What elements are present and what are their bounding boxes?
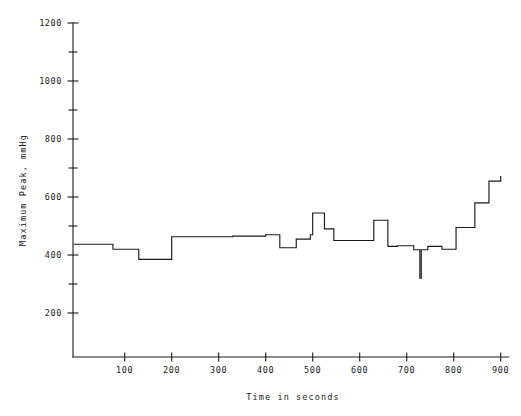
x-axis-tick-labels: 100200300400500600700800900 [116,365,509,375]
x-tick-label-300: 300 [210,365,227,375]
y-tick-label-400: 400 [45,250,62,260]
y-tick-label-200: 200 [45,308,62,318]
x-axis-title: Time in seconds [246,392,339,402]
y-tick-label-1000: 1000 [39,76,62,86]
x-tick-label-200: 200 [163,365,180,375]
y-tick-label-1200: 1200 [39,18,62,28]
y-tick-label-800: 800 [45,134,62,144]
x-tick-label-400: 400 [257,365,274,375]
data-series-maximum-peak [74,176,501,278]
x-tick-label-900: 900 [492,365,509,375]
x-tick-label-600: 600 [351,365,368,375]
y-axis-tick-labels: 20040060080010001200 [39,18,62,318]
y-tick-label-600: 600 [45,192,62,202]
x-tick-label-100: 100 [116,365,133,375]
x-tick-label-700: 700 [398,365,415,375]
y-axis-title: Maximum Peak, mmHg [18,134,28,246]
maximum-peak-vs-time-chart: 20040060080010001200 1002003004005006007… [0,0,521,416]
chart-figure: 20040060080010001200 1002003004005006007… [0,0,521,416]
x-tick-label-500: 500 [304,365,321,375]
x-tick-label-800: 800 [445,365,462,375]
